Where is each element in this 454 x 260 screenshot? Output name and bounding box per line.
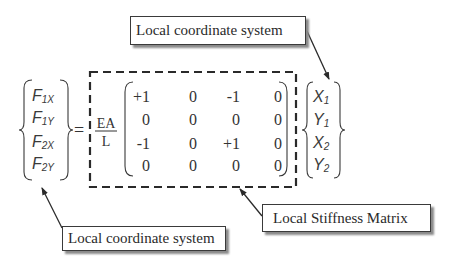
displacement-entry: X2 [313, 135, 329, 152]
fraction-denominator: L [94, 135, 118, 149]
callout-local-coordinate-system-top: Local coordinate system [130, 16, 306, 45]
matrix-cell: 0 [260, 112, 282, 128]
left-brace-disp-open [302, 82, 313, 178]
matrix-cell: 0 [218, 112, 240, 128]
force-entry: F2X [32, 134, 54, 151]
matrix-cell: 0 [128, 112, 150, 128]
left-brace-force-open [19, 80, 32, 180]
displacement-entry: X1 [313, 89, 329, 106]
matrix-cell: 0 [260, 158, 282, 174]
matrix-cell: 0 [175, 89, 197, 105]
matrix-cell: 0 [175, 136, 197, 152]
matrix-cell: 0 [260, 89, 282, 105]
displacement-entry: Y2 [313, 157, 329, 174]
matrix-cell: 0 [128, 158, 150, 174]
matrix-cell: 0 [175, 112, 197, 128]
displacement-entry: Y1 [313, 112, 329, 129]
arrow-top-callout [307, 31, 329, 79]
matrix-cell: +1 [218, 136, 240, 152]
callout-label: Local Stiffness Matrix [273, 211, 408, 226]
matrix-cell: -1 [218, 89, 240, 105]
arrow-bottom-right-callout [240, 189, 262, 216]
callout-local-stiffness-matrix: Local Stiffness Matrix [262, 204, 431, 232]
fraction-numerator: EA [94, 117, 118, 131]
force-entry: F2Y [32, 156, 54, 173]
matrix-cell: +1 [128, 89, 150, 105]
callout-label: Local coordinate system [136, 23, 283, 38]
right-brace-force-close [60, 80, 73, 180]
right-brace-disp-close [334, 82, 345, 178]
matrix-cell: -1 [128, 136, 150, 152]
matrix-cell: 0 [218, 158, 240, 174]
callout-label: Local coordinate system [68, 231, 215, 246]
force-entry: F1Y [32, 110, 54, 127]
equals-sign: = [74, 120, 84, 141]
callout-local-coordinate-system-bottom: Local coordinate system [62, 226, 226, 251]
arrow-bottom-left-callout [42, 188, 62, 228]
matrix-cell: 0 [260, 136, 282, 152]
matrix-cell: 0 [175, 158, 197, 174]
force-entry: F1X [32, 88, 54, 105]
